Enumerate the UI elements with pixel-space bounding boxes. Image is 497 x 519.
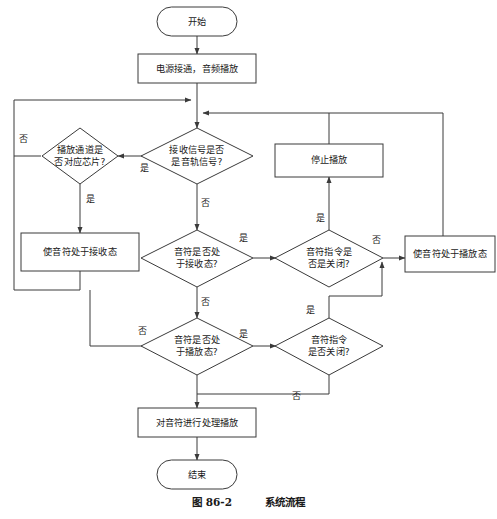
node-play-state-decision: 音符是否处 于播放态? (141, 318, 253, 375)
edge-label-recv-yes: 是 (239, 233, 248, 243)
recv-state-label-line1: 音符是否处 (174, 246, 220, 257)
process-play-label: 对音符进行处理播放 (156, 417, 239, 428)
recv-state-label-line2: 于接收态? (176, 258, 218, 269)
signal-decision-label-line2: 是音轨信号? (171, 156, 222, 167)
edge-label-recv-no: 否 (201, 297, 210, 307)
flowchart-figure: 开始 电源接通，音频播放 播放通道是 否对应芯片? 接收信号是否 是音轨信号? … (0, 0, 497, 519)
caption-title: 系统流程 (265, 496, 306, 508)
figure-caption: 图 86-2 系统流程 (192, 496, 306, 508)
edge-label-play-yes: 是 (239, 329, 248, 339)
stop-play-label: 停止播放 (311, 154, 348, 165)
node-end: 结束 (157, 460, 237, 489)
edge-label-channel-yes: 是 (86, 194, 95, 204)
node-start: 开始 (157, 7, 237, 36)
cmd-off-2-label-line2: 是否关闭? (308, 346, 350, 357)
edge-stop-play-loopback (203, 113, 329, 144)
edge-label-cmd2-no: 否 (292, 391, 301, 401)
flowchart-canvas: 开始 电源接通，音频播放 播放通道是 否对应芯片? 接收信号是否 是音轨信号? … (0, 0, 497, 519)
edge-label-cmd1-yes: 是 (316, 213, 325, 223)
cmd-off-1-label-line2: 否是关闭? (308, 258, 350, 269)
cmd-off-1-label-line1: 音符指令是 (306, 246, 352, 257)
node-cmd-off-2-decision: 音符指令 是否关闭? (275, 318, 383, 375)
node-recv-state-decision: 音符是否处 于接收态? (141, 230, 253, 287)
node-channel-decision: 播放通道是 否对应芯片? (42, 128, 118, 184)
start-label: 开始 (188, 16, 206, 27)
caption-number: 图 86-2 (192, 496, 232, 508)
node-set-play: 使音符处于播放态 (405, 236, 495, 272)
set-play-label: 使音符处于播放态 (413, 248, 487, 259)
channel-decision-label-line1: 播放通道是 (57, 144, 103, 155)
edge-cmd2-no-to-process (197, 375, 329, 394)
signal-decision-label-line1: 接收信号是否 (169, 144, 224, 155)
cmd-off-2-label-line1: 音符指令 (311, 334, 348, 345)
node-process-play: 对音符进行处理播放 (138, 408, 256, 437)
power-on-label: 电源接通，音频播放 (156, 63, 239, 74)
node-set-receive: 使音符处于接收态 (21, 233, 139, 271)
edge-label-signal-yes: 是 (140, 163, 149, 173)
edge-label-signal-no: 否 (201, 198, 210, 208)
edge-label-cmd2-yes: 是 (306, 305, 315, 315)
set-receive-label: 使音符处于接收态 (43, 246, 117, 257)
edge-label-channel-no: 否 (19, 134, 28, 144)
edge-label-play-no: 否 (138, 326, 147, 336)
edge-label-cmd1-no: 否 (372, 235, 381, 245)
play-state-label-line2: 于播放态? (176, 346, 218, 357)
node-cmd-off-1-decision: 音符指令是 否是关闭? (275, 230, 383, 287)
node-stop-play: 停止播放 (275, 144, 383, 177)
edge-play-no-loopback (90, 290, 143, 346)
channel-decision-label-line2: 否对应芯片? (54, 156, 105, 167)
node-power-on: 电源接通，音频播放 (138, 54, 256, 83)
play-state-label-line1: 音符是否处 (174, 334, 220, 345)
node-signal-decision: 接收信号是否 是音轨信号? (141, 128, 253, 184)
end-label: 结束 (188, 469, 206, 480)
